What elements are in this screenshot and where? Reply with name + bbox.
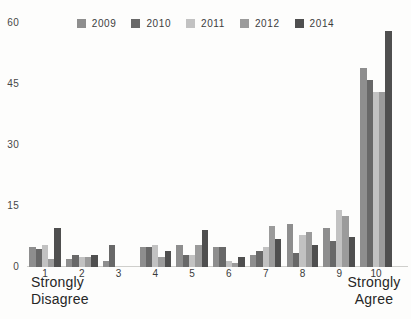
bar-2014-cat2	[91, 255, 97, 267]
x-tick-label-8: 8	[290, 268, 314, 279]
x-tick-label-3: 3	[107, 268, 131, 279]
x-tick-label-7: 7	[254, 268, 278, 279]
bar-group-1	[29, 0, 60, 267]
bar-group-2	[66, 0, 97, 267]
bar-2010-cat3	[109, 245, 115, 267]
bar-group-8	[287, 0, 318, 267]
bar-2014-cat9	[349, 237, 355, 268]
bar-group-6	[213, 0, 244, 267]
bar-2014-cat1	[54, 228, 60, 267]
bar-chart: 20092010201120122014 0153045601234567891…	[0, 0, 411, 319]
bar-2014-cat5	[202, 230, 208, 267]
bar-2014-cat8	[312, 245, 318, 267]
x-tick-label-4: 4	[143, 268, 167, 279]
bar-2014-cat4	[165, 251, 171, 267]
bar-group-4	[140, 0, 171, 267]
x-axis-label-strongly-disagree: Strongly Disagree	[31, 274, 89, 308]
bar-2014-cat7	[275, 239, 281, 268]
y-tick-label-0: 0	[0, 261, 19, 272]
bar-2014-cat10	[385, 31, 391, 267]
bar-group-5	[176, 0, 207, 267]
y-tick-label-30: 30	[0, 139, 19, 150]
x-axis-label-strongly-agree: Strongly Agree	[336, 274, 411, 308]
bar-2014-cat6	[238, 257, 244, 267]
y-tick-label-15: 15	[0, 200, 19, 211]
bar-group-10	[360, 0, 391, 267]
bar-group-3	[103, 0, 134, 267]
x-tick-label-5: 5	[180, 268, 204, 279]
y-tick-label-45: 45	[0, 78, 19, 89]
bar-group-9	[323, 0, 354, 267]
x-tick-label-6: 6	[217, 268, 241, 279]
y-tick-label-60: 60	[0, 17, 19, 28]
bar-group-7	[250, 0, 281, 267]
